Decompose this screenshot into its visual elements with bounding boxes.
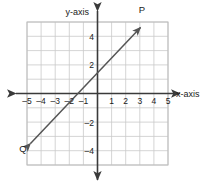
y-tick-label: 2 bbox=[89, 60, 94, 70]
x-axis-tick-labels: –5 –4 –3 –2 –1 1 2 3 4 5 bbox=[22, 96, 170, 106]
graph-canvas: –5 –4 –3 –2 –1 1 2 3 4 5 4 2 –2 –4 x-axi… bbox=[0, 0, 212, 187]
x-tick-label: –1 bbox=[79, 96, 89, 106]
y-tick-label: –2 bbox=[85, 118, 95, 128]
x-tick-label: –4 bbox=[36, 96, 46, 106]
x-axis-title: x-axis bbox=[176, 89, 200, 99]
coordinate-plane-figure: –5 –4 –3 –2 –1 1 2 3 4 5 4 2 –2 –4 x-axi… bbox=[0, 0, 212, 187]
point-label-p: P bbox=[139, 4, 145, 15]
y-tick-label: –4 bbox=[85, 146, 95, 156]
x-tick-label: 2 bbox=[123, 96, 128, 106]
x-tick-label: 1 bbox=[109, 96, 114, 106]
point-label-q: Q bbox=[19, 143, 26, 154]
x-tick-label: 3 bbox=[137, 96, 142, 106]
x-tick-label: 4 bbox=[152, 96, 157, 106]
y-axis-title: y-axis bbox=[65, 7, 89, 17]
y-tick-label: 4 bbox=[89, 32, 94, 42]
x-tick-label: –3 bbox=[50, 96, 60, 106]
x-tick-label: –5 bbox=[22, 96, 32, 106]
x-tick-label: –2 bbox=[65, 96, 75, 106]
x-tick-label: 5 bbox=[166, 96, 171, 106]
